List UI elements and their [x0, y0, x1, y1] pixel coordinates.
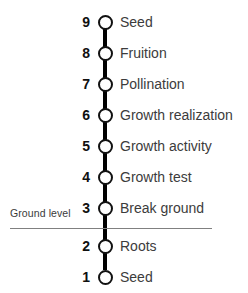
step-label: Growth activity [120, 138, 212, 154]
step-number: 1 [60, 269, 90, 285]
step-label: Break ground [120, 200, 204, 216]
step-label: Fruition [120, 45, 167, 61]
step-label: Growth realization [120, 107, 233, 123]
step-label: Growth test [120, 169, 192, 185]
lifecycle-diagram: Ground level 9 Seed 8 Fruition 7 Pollina… [0, 0, 248, 293]
step-circle-icon [98, 139, 113, 154]
step-number: 9 [60, 14, 90, 30]
step-number: 5 [60, 138, 90, 154]
step-circle-icon [98, 270, 113, 285]
step-number: 7 [60, 76, 90, 92]
step-number: 2 [60, 238, 90, 254]
step-number: 4 [60, 169, 90, 185]
step-circle-icon [98, 239, 113, 254]
step-circle-icon [98, 46, 113, 61]
step-label: Seed [120, 14, 153, 30]
step-label: Seed [120, 269, 153, 285]
step-circle-icon [98, 15, 113, 30]
step-number: 3 [60, 200, 90, 216]
step-circle-icon [98, 108, 113, 123]
step-label: Pollination [120, 76, 185, 92]
step-circle-icon [98, 201, 113, 216]
step-circle-icon [98, 77, 113, 92]
step-label: Roots [120, 238, 157, 254]
step-number: 8 [60, 45, 90, 61]
step-number: 6 [60, 107, 90, 123]
ground-level-line [10, 228, 212, 229]
step-circle-icon [98, 170, 113, 185]
